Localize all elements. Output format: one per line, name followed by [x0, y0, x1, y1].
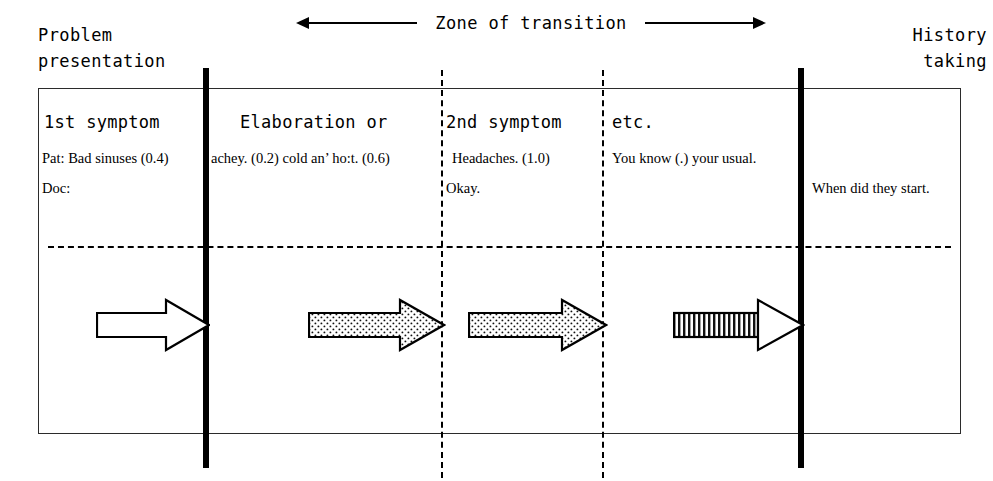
- phase-boundary-problem-presentation: [203, 68, 209, 468]
- arrow-phase-4: [673, 298, 805, 352]
- phase-label-history-taking: History taking: [862, 22, 987, 74]
- arrow-phase-2: [308, 298, 446, 352]
- zone-of-transition-header: Zone of transition: [296, 8, 766, 38]
- transition-boundary-2: [602, 70, 604, 478]
- phase-label-problem-presentation: Problem presentation: [38, 22, 166, 74]
- diagram-frame: [38, 88, 961, 434]
- phase-boundary-history-taking: [798, 68, 804, 468]
- arrow-phase-3: [468, 298, 608, 352]
- left-arrow-icon: [296, 8, 427, 38]
- transcript-arrow-separator: [48, 246, 951, 248]
- transcript-doctor-line-3: When did they start.: [812, 180, 930, 197]
- transcript-patient-line-2: achey. (0.2) cold an’ ho:t. (0.6): [211, 150, 390, 167]
- transcript-patient-line-1: Pat: Bad sinuses (0.4): [42, 150, 168, 167]
- transcript-patient-line-3: Headaches. (1.0): [452, 150, 550, 167]
- transcript-doctor-line-1: Doc:: [42, 180, 70, 197]
- transcript-patient-line-4: You know (.) your usual.: [612, 150, 756, 167]
- column-heading-elaboration: Elaboration or: [240, 112, 388, 132]
- transcript-doctor-line-2: Okay.: [446, 180, 480, 197]
- right-arrow-icon: [635, 8, 766, 38]
- transition-boundary-1: [441, 70, 443, 478]
- column-heading-etc: etc.: [612, 112, 654, 132]
- zone-of-transition-label: Zone of transition: [427, 13, 634, 33]
- diagram-canvas: Problem presentation Zone of transition …: [0, 0, 993, 481]
- arrow-phase-1: [96, 298, 210, 352]
- column-heading-2nd-symptom: 2nd symptom: [446, 112, 562, 132]
- column-heading-1st-symptom: 1st symptom: [44, 112, 160, 132]
